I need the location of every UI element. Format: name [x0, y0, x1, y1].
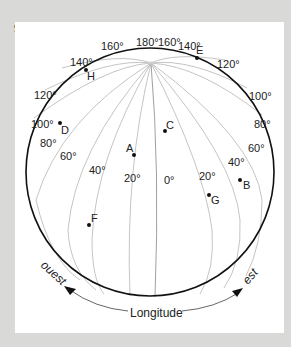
point-G: G [207, 193, 220, 206]
point-D: D [58, 121, 69, 136]
meridian-label-20-east: 20° [199, 170, 216, 182]
meridian-label-80-east: 80° [254, 118, 271, 130]
meridian-label-0: 0° [164, 174, 175, 186]
meridian-lines [34, 57, 262, 297]
rim-label-120-west: 120° [34, 89, 57, 101]
rim-label-100-east: 100° [249, 90, 272, 102]
meridian-label-60-east: 60° [248, 142, 265, 154]
svg-text:H: H [87, 70, 95, 82]
svg-text:A: A [126, 142, 134, 154]
rim-label-160-west: 160° [101, 40, 124, 52]
point-C: C [163, 119, 174, 133]
east-label: est [240, 265, 261, 287]
svg-text:F: F [91, 212, 98, 224]
arrow-west-icon [64, 286, 76, 295]
meridian-label-40-west: 40° [89, 164, 106, 176]
point-H: H [84, 68, 95, 82]
globe-diagram: 180° 160° 160° 140° 140° 120° 120° 100° … [0, 0, 291, 347]
rim-label-140-west: 140° [70, 56, 93, 68]
svg-text:D: D [61, 124, 69, 136]
longitude-title: Longitude [130, 306, 183, 320]
rim-label-100-west: 100° [31, 118, 54, 130]
meridian-label-60-west: 60° [60, 150, 77, 162]
point-B: B [238, 178, 250, 191]
svg-text:E: E [196, 44, 203, 56]
meridian-label-40-east: 40° [228, 156, 245, 168]
rim-label-120-east: 120° [217, 58, 240, 70]
rim-label-180: 180° [136, 36, 159, 48]
meridian-label-80-west: 80° [40, 137, 57, 149]
svg-text:B: B [243, 179, 250, 191]
pole-marker [147, 62, 155, 65]
svg-text:C: C [166, 119, 174, 131]
point-F: F [87, 212, 98, 227]
svg-text:G: G [211, 194, 220, 206]
meridian-label-20-west: 20° [124, 172, 141, 184]
point-A: A [126, 142, 136, 157]
